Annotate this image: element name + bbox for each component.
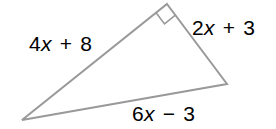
side-label-left-constant: 8 (80, 32, 92, 55)
side-label-bottom-coefficient: 6 (132, 102, 144, 125)
side-label-bottom-constant: 3 (183, 102, 195, 125)
side-label-bottom-variable: x (144, 102, 155, 125)
side-label-left-variable: x (41, 32, 52, 55)
side-label-bottom: 6x − 3 (132, 103, 195, 124)
geometry-figure: 4x + 8 2x + 3 6x − 3 (0, 0, 276, 129)
side-label-right-operator: + (223, 16, 235, 39)
right-angle-marker-icon (156, 13, 175, 24)
side-label-left-operator: + (60, 32, 72, 55)
side-label-right-variable: x (204, 16, 215, 39)
side-label-right: 2x + 3 (192, 17, 255, 38)
side-label-left: 4x + 8 (29, 33, 92, 54)
side-label-right-coefficient: 2 (192, 16, 204, 39)
side-label-right-constant: 3 (243, 16, 255, 39)
side-label-bottom-operator: − (163, 102, 175, 125)
side-label-left-coefficient: 4 (29, 32, 41, 55)
